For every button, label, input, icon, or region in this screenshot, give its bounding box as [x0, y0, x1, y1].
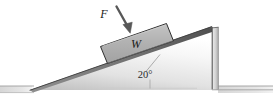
inclined-plane-figure: F W 20° [0, 0, 273, 110]
ground-left-slab [0, 86, 32, 93]
figure-canvas: F W 20° [0, 0, 273, 110]
cliff-face [212, 27, 219, 90]
angle-label: 20° [138, 69, 153, 80]
force-label: F [99, 7, 108, 21]
weight-label: W [131, 37, 142, 51]
